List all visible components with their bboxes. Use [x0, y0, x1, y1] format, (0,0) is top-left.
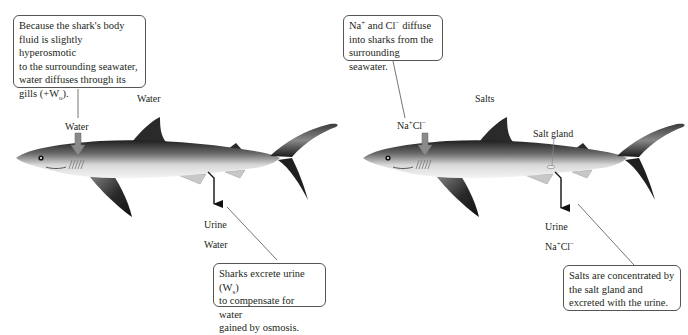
callout-text: )	[235, 282, 239, 293]
callout-text: and Cl	[365, 20, 395, 31]
callout-urine-excretion: Sharks excrete urine (Ws) to compensate …	[213, 263, 326, 307]
callout-line: the salt gland and	[569, 283, 675, 297]
gill-label-water: Water	[65, 121, 89, 132]
callout-gill-water-diffusion: Because the shark's body fluid is slight…	[13, 15, 146, 88]
panel-heading-water: Water	[137, 93, 161, 104]
callout-line: surrounding seawater.	[349, 46, 437, 73]
callout-line: fluid is slightly hyperosmotic	[19, 33, 140, 60]
callout-line: water diffuses through its	[19, 73, 140, 87]
callout-line: Because the shark's body	[19, 19, 140, 33]
superscript: −	[570, 240, 574, 248]
urine-label: Urine	[204, 219, 227, 230]
callout-line: into sharks from the	[349, 33, 437, 47]
callout-line: gills (+Wo).	[19, 87, 140, 101]
callout-text: Na	[349, 20, 361, 31]
callout-line: to compensate for water	[219, 294, 320, 321]
callout-line: to the surrounding seawater,	[19, 60, 140, 74]
label-text: Cl	[561, 241, 570, 252]
callout-line: gained by osmosis.	[219, 321, 320, 335]
urine-nacl-label: Na+Cl−	[545, 241, 574, 252]
callout-text: diffuse	[400, 20, 432, 31]
superscript: −	[422, 119, 426, 127]
urine-water-label: Water	[204, 239, 228, 250]
shark-illustration-left	[16, 117, 338, 217]
panel-heading-salts: Salts	[475, 93, 494, 104]
callout-line: Salts are concentrated by	[569, 269, 675, 283]
callout-text: gills (+W	[19, 88, 59, 99]
salt-gland-label: Salt gland	[533, 128, 573, 139]
callout-line: Na+ and Cl− diffuse	[349, 19, 437, 33]
label-text: Na	[397, 120, 409, 131]
urine-label: Urine	[545, 221, 568, 232]
label-text: Cl	[413, 120, 422, 131]
label-text: Na	[545, 241, 557, 252]
callout-line: excreted with the urine.	[569, 296, 675, 310]
callout-line: Sharks excrete urine (Ws)	[219, 267, 320, 294]
shark-illustration-right	[363, 117, 685, 217]
gill-label-nacl: Na+Cl−	[397, 120, 426, 131]
callout-salt-gland-excretion: Salts are concentrated by the salt gland…	[563, 265, 681, 311]
callout-text: ).	[63, 88, 69, 99]
callout-salt-diffusion: Na+ and Cl− diffuse into sharks from the…	[343, 15, 443, 61]
